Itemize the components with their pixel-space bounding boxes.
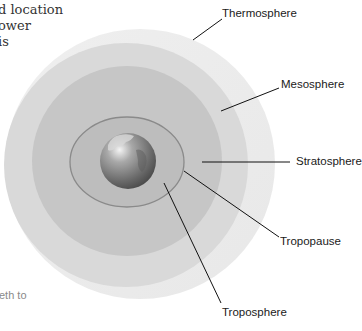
thermosphere-label: Thermosphere: [222, 7, 297, 19]
thermosphere-leader-line: [193, 19, 222, 40]
mesosphere-label: Mesosphere: [281, 78, 344, 90]
tropopause-label: Tropopause: [280, 235, 341, 247]
earth-globe-icon: [100, 133, 156, 189]
stratosphere-label: Stratosphere: [296, 155, 362, 167]
troposphere-label: Troposphere: [222, 306, 287, 318]
caption-text-fragment: eth to: [0, 289, 27, 301]
